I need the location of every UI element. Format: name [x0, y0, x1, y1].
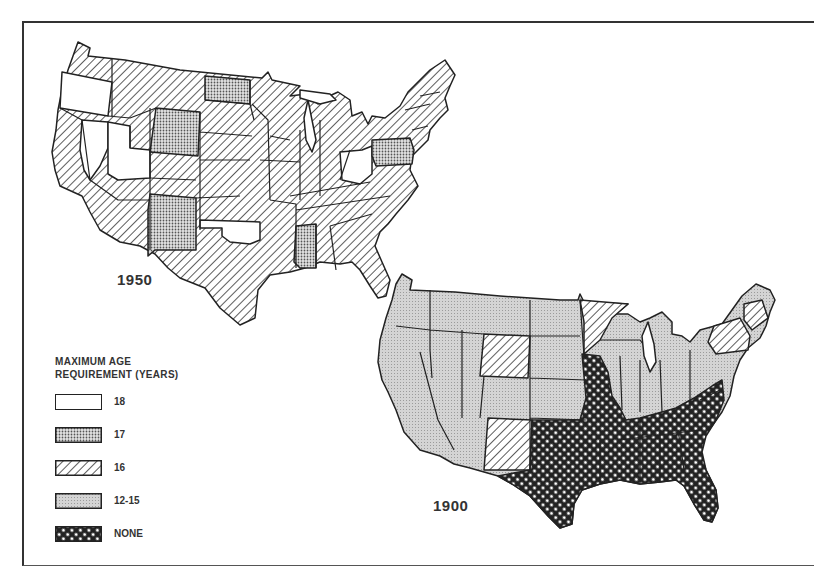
state-1950-wyoming: [150, 108, 200, 156]
state-1950-pennsylvania: [372, 138, 414, 166]
legend-title-line1: MAXIMUM AGE: [55, 355, 178, 368]
year-label-1900: 1900: [433, 497, 468, 514]
map-1950: [52, 42, 455, 325]
dots-swatch-icon: [55, 427, 102, 443]
legend-item-none: NONE: [55, 517, 178, 550]
legend-label: NONE: [114, 528, 143, 539]
legend-label: 17: [114, 429, 125, 440]
year-label-1950: 1950: [117, 271, 152, 288]
blank-swatch-icon: [55, 394, 102, 410]
map-1900: [378, 274, 775, 528]
state-1900-new-mexico: [484, 418, 532, 470]
state-1950-north-dakota: [205, 76, 250, 104]
crosshatch-swatch-icon: [55, 526, 102, 542]
hatch-swatch-icon: [55, 460, 102, 476]
legend-item-16: 16: [55, 451, 178, 484]
state-1950-mississippi: [294, 224, 316, 268]
legend-item-18: 18: [55, 385, 178, 418]
legend-title-line2: REQUIREMENT (YEARS): [55, 368, 178, 381]
stipple-swatch-icon: [55, 493, 102, 509]
state-1950-new-mexico: [148, 194, 196, 256]
legend-label: 12-15: [114, 495, 140, 506]
legend-item-12-15: 12-15: [55, 484, 178, 517]
legend-label: 16: [114, 462, 125, 473]
state-1900-new-york: [708, 318, 750, 354]
legend-item-17: 17: [55, 418, 178, 451]
legend-label: 18: [114, 396, 125, 407]
state-1900-wyoming: [480, 334, 530, 378]
legend: MAXIMUM AGE REQUIREMENT (YEARS) 18 17 16…: [55, 355, 178, 550]
